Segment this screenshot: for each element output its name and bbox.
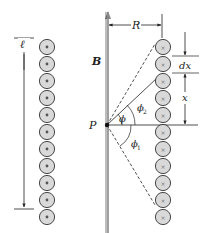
wire-cross: ×	[155, 124, 170, 139]
wire-cross: ×	[155, 90, 170, 105]
svg-text:2: 2	[143, 108, 147, 115]
wire-dot	[39, 192, 54, 207]
dx-dimension: dx	[172, 32, 199, 73]
field-label: B	[91, 55, 101, 68]
wire-dot	[39, 158, 54, 173]
svg-text:×: ×	[160, 214, 165, 221]
svg-text:×: ×	[160, 78, 165, 85]
wire-dot	[39, 141, 54, 156]
svg-text:×: ×	[160, 197, 165, 204]
wire-cross: ×	[155, 39, 170, 54]
wire-dot	[39, 56, 54, 71]
svg-text:×: ×	[160, 163, 165, 170]
length-dimension: ℓ	[14, 38, 34, 209]
wire-cross: ×	[155, 158, 170, 173]
left-wire-column	[39, 39, 54, 224]
dx-label: dx	[179, 60, 191, 71]
svg-text:×: ×	[160, 112, 165, 119]
x-label: x	[182, 92, 188, 103]
point-label: P	[88, 119, 97, 132]
svg-text:×: ×	[160, 146, 165, 153]
wire-dot	[39, 107, 54, 122]
wire-dot	[39, 39, 54, 54]
svg-text:1: 1	[137, 144, 141, 151]
wire-cross: ×	[155, 192, 170, 207]
svg-text:×: ×	[160, 61, 165, 68]
svg-text:×: ×	[160, 44, 165, 51]
wire-cross: ×	[155, 175, 170, 190]
radius-dimension: R	[109, 14, 162, 38]
x-dimension: x	[182, 74, 188, 124]
svg-text:×: ×	[160, 95, 165, 102]
angle-phi1-label: ϕ 1	[131, 138, 141, 151]
wire-cross: ×	[155, 56, 170, 71]
axis	[106, 12, 108, 233]
wire-dot	[39, 124, 54, 139]
wire-dot	[39, 73, 54, 88]
svg-text:×: ×	[160, 180, 165, 187]
wire-dot	[39, 175, 54, 190]
angle-phi-label: ϕ	[119, 113, 126, 124]
length-label: ℓ	[20, 38, 25, 51]
wire-cross: ×	[155, 141, 170, 156]
angle-phi2-label: ϕ 2	[137, 102, 147, 115]
wire-cross: ×	[155, 107, 170, 122]
svg-text:×: ×	[160, 129, 165, 136]
wire-cross: ×	[155, 209, 170, 224]
solenoid-diagram: ℓ B R P ϕ ϕ 2	[0, 0, 211, 233]
wire-dot	[39, 90, 54, 105]
wire-cross: ×	[155, 73, 170, 88]
right-wire-column: × × × × × × × × × × ×	[155, 39, 170, 224]
wire-dot	[39, 209, 54, 224]
radius-label: R	[131, 19, 140, 32]
